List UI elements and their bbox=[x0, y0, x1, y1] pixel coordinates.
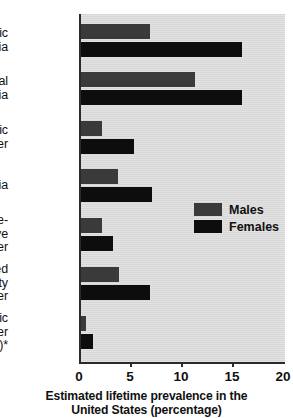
category-label-2: Panicdisorder bbox=[0, 124, 8, 151]
bar-females-4 bbox=[81, 236, 113, 251]
bar-males-2 bbox=[81, 121, 102, 136]
category-label-0-line-0: Specific bbox=[0, 27, 8, 41]
x-axis-title: Estimated lifetime prevalence in the Uni… bbox=[0, 390, 293, 417]
category-label-5: Generalizedanxietydisorder bbox=[0, 263, 8, 304]
legend-label-males: Males bbox=[229, 203, 264, 217]
x-tick-15 bbox=[232, 362, 234, 367]
bar-males-5 bbox=[81, 267, 119, 282]
bar-males-4 bbox=[81, 218, 102, 233]
bar-females-0 bbox=[81, 42, 242, 57]
bar-females-1 bbox=[81, 90, 242, 105]
x-tick-label-15: 15 bbox=[217, 369, 247, 384]
x-tick-label-20: 20 bbox=[268, 369, 293, 384]
category-label-5-line-2: disorder bbox=[0, 290, 8, 304]
category-label-5-line-0: Generalized bbox=[0, 263, 8, 277]
plot-area bbox=[79, 14, 285, 364]
category-label-3-line-0: Agoraphobia bbox=[0, 179, 8, 193]
category-label-1: Socialphobia bbox=[0, 75, 8, 102]
x-tick-10 bbox=[181, 362, 183, 367]
bar-males-6 bbox=[81, 316, 86, 331]
legend: MalesFemales bbox=[194, 202, 286, 236]
bar-females-5 bbox=[81, 285, 150, 300]
legend-swatch-males bbox=[194, 203, 222, 216]
category-label-1-line-1: phobia bbox=[0, 89, 8, 103]
x-tick-label-5: 5 bbox=[115, 369, 145, 384]
category-label-4: Obsessive-compulsivedisorder bbox=[0, 214, 8, 255]
bar-females-6 bbox=[81, 334, 93, 349]
category-label-6-line-0: Posttraumatic bbox=[0, 312, 8, 326]
category-label-6: Posttraumaticstress disorder(PTSD)* bbox=[0, 312, 8, 353]
bar-males-0 bbox=[81, 24, 150, 39]
x-axis-title-line-2: United States (percentage) bbox=[0, 404, 293, 418]
category-label-0: Specificphobia bbox=[0, 27, 8, 54]
bar-males-1 bbox=[81, 72, 195, 87]
category-label-3: Agoraphobia bbox=[0, 179, 8, 193]
bar-females-3 bbox=[81, 187, 152, 202]
x-axis-title-line-1: Estimated lifetime prevalence in the bbox=[0, 390, 293, 404]
category-label-5-line-1: anxiety bbox=[0, 277, 8, 291]
category-label-4-line-2: disorder bbox=[0, 241, 8, 255]
anxiety-disorder-prevalence-bar-chart: SpecificphobiaSocialphobiaPanicdisorderA… bbox=[0, 0, 293, 418]
legend-item-males: Males bbox=[194, 202, 286, 217]
legend-label-females: Females bbox=[229, 220, 279, 234]
category-label-0-line-1: phobia bbox=[0, 41, 8, 55]
x-tick-label-0: 0 bbox=[64, 369, 94, 384]
category-label-4-line-1: compulsive bbox=[0, 228, 8, 242]
category-label-2-line-0: Panic bbox=[0, 124, 8, 138]
category-label-4-line-0: Obsessive- bbox=[0, 214, 8, 228]
category-label-1-line-0: Social bbox=[0, 75, 8, 89]
legend-swatch-females bbox=[194, 220, 222, 233]
x-tick-5 bbox=[130, 362, 132, 367]
x-tick-label-10: 10 bbox=[166, 369, 196, 384]
bar-males-3 bbox=[81, 169, 118, 184]
category-label-6-line-2: (PTSD)* bbox=[0, 339, 8, 353]
bar-females-2 bbox=[81, 139, 134, 154]
category-label-6-line-1: stress disorder bbox=[0, 326, 8, 340]
legend-item-females: Females bbox=[194, 219, 286, 234]
category-label-2-line-1: disorder bbox=[0, 138, 8, 152]
